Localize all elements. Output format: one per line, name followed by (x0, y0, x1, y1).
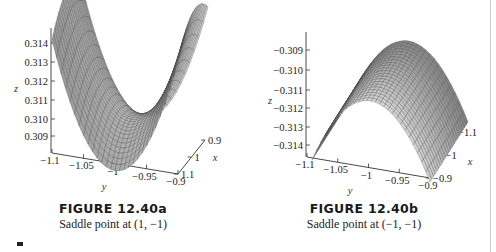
y-tick-label: −1 (361, 170, 372, 181)
z-tick-label: −0.314 (273, 140, 303, 151)
surface-plot-b: −0.309−0.310−0.311−0.312−0.313−0.314z−1.… (0, 0, 496, 200)
z-tick-label: −0.309 (273, 45, 303, 56)
figure-12-40b: −0.309−0.310−0.311−0.312−0.313−0.314z−1.… (0, 0, 496, 252)
x-axis-label: x (467, 156, 473, 167)
y-tick-label: −1.1 (295, 159, 314, 170)
z-tick-label: −0.312 (273, 103, 303, 114)
z-tick-label: −0.313 (273, 122, 303, 133)
y-tick-label: −0.95 (385, 175, 409, 186)
z-tick-label: −0.310 (273, 65, 303, 76)
figure-caption-b: FIGURE 12.40b Saddle point at (−1, −1) (264, 201, 464, 232)
z-axis-label: z (267, 95, 272, 106)
figure-title-b: FIGURE 12.40b (264, 201, 464, 216)
y-tick-label: −1.05 (324, 164, 348, 175)
z-tick-label: −0.311 (274, 85, 303, 96)
y-axis-label: y (347, 185, 353, 196)
x-tick-label: −0.9 (433, 173, 452, 184)
figure-subtitle-b: Saddle point at (−1, −1) (264, 217, 464, 232)
